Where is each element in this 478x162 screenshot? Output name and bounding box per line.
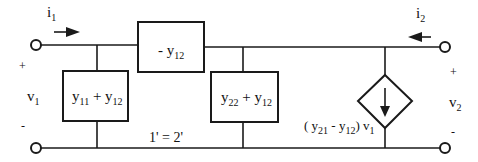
i2-label: i2 [416,5,425,24]
port2-minus-sign: - [451,125,455,139]
two-port-circuit-diagram: - y12 y11 + y12 y22 + y12 ( y21 - y12) v… [0,0,478,162]
right-shunt-admittance-box: y22 + y12 [211,72,278,122]
port2-plus-sign: + [450,65,457,79]
port2-plus-terminal [440,42,450,52]
dependent-source-label: ( y21 - y12) v1 [304,118,375,136]
common-ground-label: 1' = 2' [149,130,183,145]
v2-label: v2 [449,94,462,113]
v1-label: v1 [27,88,40,107]
arrow-left-icon [408,32,431,42]
series-admittance-box: - y12 [138,22,204,72]
port1-plus-sign: + [19,59,26,73]
i1-label: i1 [47,4,56,23]
left-shunt-admittance-box: y11 + y12 [63,71,128,121]
arrow-right-icon [54,27,80,37]
port2-minus-terminal [440,143,450,153]
port1-minus-sign: - [21,119,25,133]
port1-plus-terminal [31,40,41,50]
port1-minus-terminal [31,143,41,153]
dependent-current-source: ( y21 - y12) v1 [304,75,412,136]
